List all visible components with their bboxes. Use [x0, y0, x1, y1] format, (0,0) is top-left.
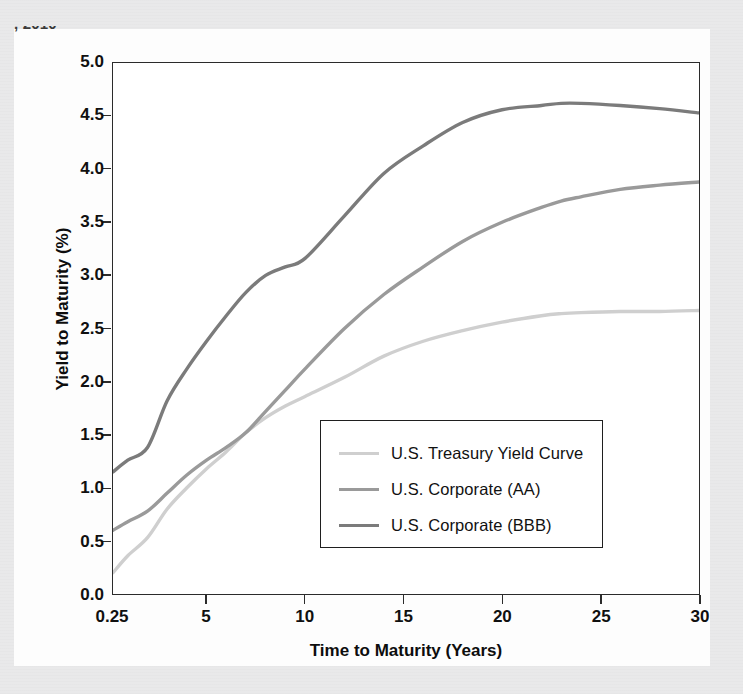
y-axis-tick-label: 0.5 [44, 532, 104, 552]
y-axis-tick [102, 381, 111, 383]
x-axis-tick [304, 595, 306, 604]
y-axis-tick-label: 4.0 [44, 159, 104, 179]
y-axis-tick-label: 5.0 [44, 52, 104, 72]
legend-item-label: U.S. Treasury Yield Curve [391, 444, 583, 463]
series-line [113, 103, 699, 472]
x-axis-tick-label: 20 [462, 607, 542, 627]
legend-item[interactable]: U.S. Corporate (AA) [321, 471, 602, 507]
x-axis-tick-label: 5 [166, 607, 246, 627]
yield-curve-chart: 0.00.51.01.52.02.53.03.54.04.55.0 0.2551… [14, 29, 710, 666]
x-axis-tick [600, 595, 602, 604]
x-axis-title: Time to Maturity (Years) [112, 641, 700, 661]
x-axis-tick-label: 30 [660, 607, 740, 627]
x-axis-tick [205, 595, 207, 604]
y-axis-tick-label: 1.5 [44, 425, 104, 445]
y-axis-tick-label: 0.0 [44, 585, 104, 605]
y-axis-tick [102, 541, 111, 543]
legend-item-label: U.S. Corporate (AA) [391, 480, 541, 499]
chart-legend: U.S. Treasury Yield CurveU.S. Corporate … [320, 420, 603, 548]
figure-paper: , 2010 0.00.51.01.52.02.53.03.54.04.55.0… [14, 29, 710, 666]
x-axis-tick-label: 15 [364, 607, 444, 627]
x-axis-tick-label: 10 [265, 607, 345, 627]
y-axis-title: Yield to Maturity (%) [53, 194, 73, 424]
legend-color-swatch [339, 452, 379, 455]
y-axis-tick [102, 168, 111, 170]
legend-item[interactable]: U.S. Corporate (BBB) [321, 507, 602, 543]
y-axis-tick [102, 221, 111, 223]
x-axis-tick [699, 595, 701, 604]
x-axis-tick [502, 595, 504, 604]
legend-color-swatch [339, 488, 379, 491]
y-axis-tick [102, 488, 111, 490]
y-axis-tick [102, 274, 111, 276]
legend-color-swatch [339, 524, 379, 527]
legend-item[interactable]: U.S. Treasury Yield Curve [321, 435, 602, 471]
y-axis-tick [102, 115, 111, 117]
y-axis-tick [102, 328, 111, 330]
y-axis-tick-label: 4.5 [44, 105, 104, 125]
legend-item-label: U.S. Corporate (BBB) [391, 516, 552, 535]
x-axis-tick-label: 25 [561, 607, 641, 627]
x-axis-tick [403, 595, 405, 604]
x-axis-tick-label: 0.25 [72, 607, 152, 627]
y-axis-tick-label: 1.0 [44, 478, 104, 498]
y-axis-tick [102, 434, 111, 436]
